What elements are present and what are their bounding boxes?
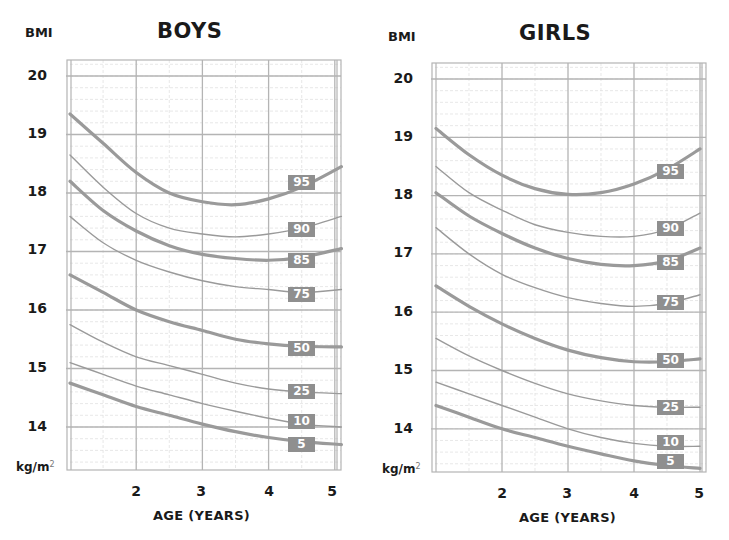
girls-label-25: 25 <box>657 400 684 415</box>
boys-ytick-17: 17 <box>7 241 47 257</box>
girls-label-95: 95 <box>657 164 684 179</box>
boys-label-85: 85 <box>288 253 315 268</box>
boys-ytick-19: 19 <box>7 125 47 141</box>
boys-label-95: 95 <box>288 175 315 190</box>
girls-ytick-19: 19 <box>373 128 413 144</box>
girls-xtick-3: 3 <box>557 485 577 501</box>
boys-xtick-5: 5 <box>322 483 342 499</box>
girls-label-50: 50 <box>657 353 684 368</box>
boys-x-axis-label: AGE (YEARS) <box>153 508 250 523</box>
girls-label-75: 75 <box>657 295 684 310</box>
boys-ytick-18: 18 <box>7 183 47 199</box>
girls-ytick-15: 15 <box>373 361 413 377</box>
boys-ytick-20: 20 <box>7 67 47 83</box>
girls-bmi-axis-label: BMI <box>388 29 416 44</box>
girls-x-axis-label: AGE (YEARS) <box>519 510 616 525</box>
boys-ytick-16: 16 <box>7 300 47 316</box>
girls-ytick-17: 17 <box>373 244 413 260</box>
girls-chart-title: GIRLS <box>519 21 591 45</box>
boys-chart-title: BOYS <box>157 19 222 43</box>
percentile-curve-25 <box>436 338 700 407</box>
boys-ytick-15: 15 <box>7 359 47 375</box>
boys-label-90: 90 <box>288 222 315 237</box>
percentile-curve-10 <box>436 382 700 446</box>
boys-chart: BMI BOYS 20 19 18 17 16 15 14 kg/m2 2 3 … <box>0 0 360 540</box>
percentile-curve-75 <box>436 228 700 307</box>
boys-label-50: 50 <box>288 341 315 356</box>
girls-ytick-18: 18 <box>373 186 413 202</box>
boys-plot-area <box>0 0 360 540</box>
boys-ytick-14: 14 <box>7 418 47 434</box>
girls-unit-label: kg/m2 <box>382 462 421 476</box>
girls-label-90: 90 <box>657 221 684 236</box>
boys-label-10: 10 <box>288 414 315 429</box>
girls-xtick-5: 5 <box>689 485 709 501</box>
percentile-curve-90 <box>436 166 700 237</box>
girls-ytick-20: 20 <box>373 70 413 86</box>
boys-xtick-3: 3 <box>191 483 211 499</box>
percentile-curve-5 <box>436 405 700 468</box>
girls-xtick-4: 4 <box>624 485 644 501</box>
percentile-curve-50 <box>436 286 700 362</box>
girls-xtick-2: 2 <box>492 485 512 501</box>
girls-label-10: 10 <box>657 435 684 450</box>
boys-label-5: 5 <box>288 437 315 452</box>
percentile-curve-95 <box>70 114 341 205</box>
boys-bmi-axis-label: BMI <box>25 25 53 40</box>
boys-label-25: 25 <box>288 384 315 399</box>
girls-label-5: 5 <box>657 454 684 469</box>
percentile-curve-50 <box>70 275 341 347</box>
boys-label-75: 75 <box>288 287 315 302</box>
girls-ytick-16: 16 <box>373 303 413 319</box>
percentile-curve-95 <box>436 129 700 195</box>
boys-unit-label: kg/m2 <box>16 460 55 474</box>
boys-xtick-4: 4 <box>259 483 279 499</box>
boys-xtick-2: 2 <box>126 483 146 499</box>
girls-label-85: 85 <box>657 255 684 270</box>
percentile-curve-85 <box>436 193 700 266</box>
girls-ytick-14: 14 <box>373 420 413 436</box>
